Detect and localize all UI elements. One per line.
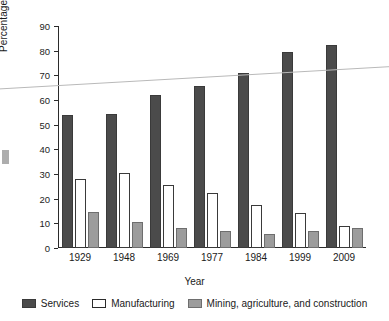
bar xyxy=(238,73,249,248)
bar xyxy=(176,228,187,248)
y-axis-line xyxy=(58,26,59,248)
legend-label: Services xyxy=(41,298,79,309)
bar xyxy=(62,115,73,248)
bar xyxy=(75,179,86,248)
x-tick-label: 1977 xyxy=(201,252,223,263)
legend-item: Manufacturing xyxy=(92,298,174,309)
bar xyxy=(194,86,205,248)
bar-group xyxy=(282,26,319,248)
x-axis-title: Year xyxy=(0,276,389,287)
bar-group xyxy=(194,26,231,248)
x-tick-label: 2009 xyxy=(333,252,355,263)
bar xyxy=(132,222,143,248)
bar-group xyxy=(326,26,363,248)
y-tick-label: 30 xyxy=(30,169,50,180)
bar-group xyxy=(150,26,187,248)
bar xyxy=(119,173,130,248)
y-tick xyxy=(54,223,58,224)
bar xyxy=(352,228,363,248)
bar xyxy=(220,231,231,248)
y-tick-label: 20 xyxy=(30,193,50,204)
x-tick-label: 1969 xyxy=(157,252,179,263)
y-tick xyxy=(54,174,58,175)
bar xyxy=(106,114,117,248)
x-tick-label: 1984 xyxy=(245,252,267,263)
y-tick xyxy=(54,125,58,126)
y-tick xyxy=(54,149,58,150)
bar xyxy=(264,234,275,248)
bar xyxy=(308,231,319,248)
x-tick-label: 1929 xyxy=(69,252,91,263)
y-tick xyxy=(54,100,58,101)
y-tick-label: 0 xyxy=(30,243,50,254)
bar-chart: Percentage of U.S. Labor Force 010203040… xyxy=(0,0,389,321)
bar xyxy=(339,226,350,248)
bar xyxy=(251,205,262,248)
legend-label: Mining, agriculture, and construction xyxy=(207,298,368,309)
x-tick-label: 1948 xyxy=(113,252,135,263)
legend-item: Services xyxy=(22,298,79,309)
legend-swatch-services xyxy=(22,299,36,308)
y-tick xyxy=(54,26,58,27)
bar xyxy=(282,52,293,248)
y-tick-label: 40 xyxy=(30,144,50,155)
y-tick-label: 80 xyxy=(30,45,50,56)
bar-group xyxy=(238,26,275,248)
y-tick-label: 70 xyxy=(30,70,50,81)
y-tick-label: 10 xyxy=(30,218,50,229)
y-axis-title: Percentage of U.S. Labor Force xyxy=(0,0,9,52)
scan-artifact xyxy=(2,150,9,164)
bar xyxy=(150,95,161,248)
y-tick xyxy=(54,75,58,76)
legend-swatch-manufacturing xyxy=(92,299,106,308)
y-tick xyxy=(54,199,58,200)
bar xyxy=(88,212,99,248)
bar-group xyxy=(106,26,143,248)
y-tick-label: 50 xyxy=(30,119,50,130)
legend-label: Manufacturing xyxy=(111,298,174,309)
x-tick-label: 1999 xyxy=(289,252,311,263)
chart-legend: ServicesManufacturingMining, agriculture… xyxy=(0,298,389,309)
y-tick-label: 60 xyxy=(30,95,50,106)
bar xyxy=(295,213,306,248)
legend-item: Mining, agriculture, and construction xyxy=(188,298,368,309)
bar-group xyxy=(62,26,99,248)
bar xyxy=(207,193,218,249)
y-tick xyxy=(54,248,58,249)
plot-area: 0102030405060708090 xyxy=(58,26,366,248)
y-tick-label: 90 xyxy=(30,21,50,32)
legend-swatch-mining xyxy=(188,299,202,308)
bar xyxy=(326,45,337,249)
y-tick xyxy=(54,51,58,52)
bar xyxy=(163,185,174,248)
